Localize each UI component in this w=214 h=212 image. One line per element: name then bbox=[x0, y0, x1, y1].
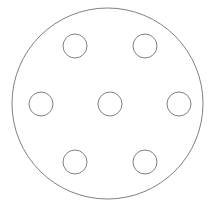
figure-root bbox=[0, 0, 214, 212]
flange-drawing bbox=[0, 0, 214, 212]
drawing-background bbox=[0, 0, 214, 212]
figure-caption bbox=[0, 202, 214, 212]
